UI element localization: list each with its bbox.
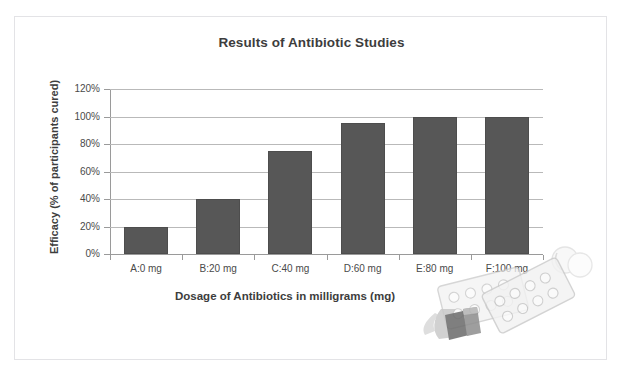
bar[interactable] [124,227,168,255]
y-axis-tick-label-host: 0% [55,254,100,255]
x-axis-tick [327,255,328,260]
bar[interactable] [413,117,457,255]
x-axis-tick-label: F:100 mg [471,263,543,274]
bar-slot [182,89,254,254]
x-axis-tick-label: A:0 mg [110,263,182,274]
bar-slot [110,89,182,254]
bar-slot [254,89,326,254]
y-axis-tick-label-host: 60% [55,172,100,173]
x-axis-tick [182,255,183,260]
y-axis-tick-label-host: 80% [55,144,100,145]
x-axis-tick-label: D:60 mg [327,263,399,274]
y-axis-tick-label: 120% [60,84,100,94]
bar[interactable] [196,199,240,254]
y-axis-tick-label-host: 100% [55,117,100,118]
y-axis-title: Efficacy (% of participants cured) [47,77,61,257]
bar[interactable] [341,123,385,254]
x-axis-tick [471,255,472,260]
bars-group [110,89,543,254]
y-axis-tick-label: 20% [60,222,100,232]
x-axis-tick-label: E:80 mg [399,263,471,274]
y-axis-tick-label: 0% [60,249,100,259]
y-axis-tick-label: 80% [60,139,100,149]
bar-slot [327,89,399,254]
y-axis-tick-label: 60% [60,167,100,177]
x-axis-tick-label: B:20 mg [182,263,254,274]
bar[interactable] [485,117,529,255]
x-axis-tick [543,255,544,260]
y-axis-tick-label-host: 20% [55,227,100,228]
chart-title: Results of Antibiotic Studies [15,35,608,50]
x-axis-tick [399,255,400,260]
chart-card: Results of Antibiotic Studies Efficacy (… [14,16,607,360]
y-axis-tick-label: 40% [60,194,100,204]
y-axis-tick-label: 100% [60,112,100,122]
bar-slot [471,89,543,254]
y-axis-tick-label-host: 40% [55,199,100,200]
x-axis-tick [254,255,255,260]
x-axis-title: Dosage of Antibiotics in milligrams (mg) [75,290,495,302]
y-axis-title-label: Efficacy (% of participants cured) [48,80,60,254]
x-axis-tick [110,255,111,260]
y-axis-tick-label-host: 120% [55,89,100,90]
top-faint-text [0,0,623,12]
bar[interactable] [268,151,312,254]
x-axis-tick-label: C:40 mg [254,263,326,274]
bar-slot [399,89,471,254]
